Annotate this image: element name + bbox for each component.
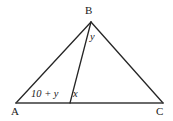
vertex-label-b: B [85,5,92,16]
vertex-label-a: A [11,106,19,117]
geometry-figure: B A C y 10 + y x [0,0,173,121]
triangle-diagram [0,0,173,121]
angle-label-b: y [90,32,95,43]
angle-label-a: 10 + y [31,89,59,100]
angle-label-x: x [73,89,78,100]
side-bc-line [91,22,163,103]
vertex-label-c: C [156,106,163,117]
